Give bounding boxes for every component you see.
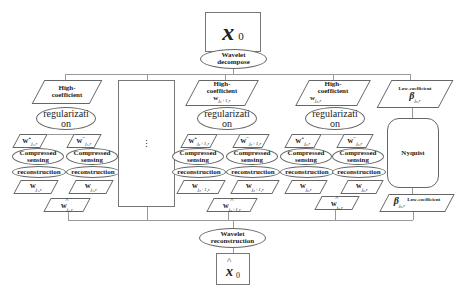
connector — [412, 108, 413, 118]
w-rec-left-3: wj₀,r — [288, 180, 324, 194]
beta-sub: j₀,r — [399, 203, 405, 208]
w-sub: j₁,r — [67, 206, 73, 211]
w-sub: j₀,r — [362, 186, 368, 191]
regularization-node-2: regularization — [197, 107, 257, 130]
recon-label: reconstruction — [17, 169, 60, 176]
regularization-node-3: regularization — [305, 107, 365, 130]
w-rec-right-3: wj₀,r — [344, 180, 380, 194]
connector — [147, 207, 148, 220]
nyquist-node: Nyquist — [387, 118, 439, 188]
output-subscript: 0 — [236, 271, 240, 280]
high-coefficient-input-2: High-coefficientwj₀+1,r — [192, 80, 252, 106]
w-rec-right-2: wj₀+1,r — [234, 180, 276, 194]
input-signal-box: x 0 — [205, 12, 261, 52]
low-coefficient-input: Low-coefficientβj₀,r — [384, 80, 446, 108]
regularization-node-1: regularization — [36, 107, 96, 130]
w-sub: j₀+1,r — [229, 206, 241, 211]
recon-label: reconstruction — [231, 169, 274, 176]
low-coefficient-output: βj₀,r Low-coefficient — [384, 194, 450, 212]
w-plus-sub: j₁,r — [31, 142, 37, 147]
w-final-2: ^wj₀+1,r — [210, 198, 254, 212]
ellipsis-symbol: ⋮ — [142, 139, 151, 149]
cs-label: Compressed sensing — [173, 150, 223, 164]
w-final-3: ^wj₀,r — [318, 196, 356, 210]
w-sub: j₁,r — [36, 186, 42, 191]
compressed-sensing-node: Compressed sensing — [332, 148, 384, 165]
recon-label: reconstruction — [285, 169, 328, 176]
connector — [228, 212, 229, 220]
cs-label: Compressed sensing — [227, 150, 277, 164]
recon-label: reconstruction — [71, 169, 114, 176]
flowchart: x 0 Wavelet decompose High-coefficient r… — [0, 0, 469, 294]
w-minus-sub: j₀,r — [356, 142, 362, 147]
compressed-sensing-node: Compressed sensing — [12, 148, 64, 165]
input-subscript: 0 — [238, 30, 244, 42]
reconstruction-node: reconstruction — [172, 166, 226, 178]
coeff-sub: j₀+1,r — [218, 99, 230, 104]
decompose-label: Wavelet decompose — [214, 52, 254, 66]
w-plus-3: w+j₀,r — [288, 134, 318, 148]
w-rec-left-1: wj₁,r — [17, 180, 55, 194]
w-minus-sub: j₀+1,r — [249, 142, 261, 147]
top-bus — [65, 74, 410, 75]
reconstruction-node: reconstruction — [280, 166, 334, 178]
w-sub: j₁,r — [91, 186, 97, 191]
w-plus-1: w+j₁,r — [16, 134, 44, 148]
low-label: Low-coefficient — [407, 196, 440, 203]
coeff-sub: j₀,r — [315, 99, 321, 104]
connector — [335, 210, 336, 220]
output-signal-box: ^ x 0 — [216, 253, 250, 285]
w-minus-sub: j₁,r — [85, 142, 91, 147]
w-rec-right-1: wj₁,r — [72, 180, 110, 194]
wavelet-decompose-node: Wavelet decompose — [200, 49, 267, 69]
recon-label: reconstruction — [177, 169, 220, 176]
high-coefficient-input-1: High-coefficient — [38, 80, 96, 104]
compressed-sensing-node: Compressed sensing — [172, 148, 224, 165]
coeff-label: High-coefficient — [314, 81, 352, 95]
w-minus-3: w−j₀,r — [340, 134, 370, 148]
recon-label: reconstruction — [337, 169, 380, 176]
w-plus-sub: j₀+1,r — [197, 142, 209, 147]
reconstruction-node: reconstruction — [226, 166, 280, 178]
w-plus-2: w+j₀+1,r — [184, 134, 214, 148]
w-minus-2: w−j₀+1,r — [236, 134, 266, 148]
reconstruction-node: reconstruction — [66, 166, 120, 178]
beta-sub: j₀,r — [414, 98, 420, 103]
cs-label: Compressed sensing — [13, 150, 63, 164]
coeff-label: High-coefficient — [203, 81, 241, 95]
compressed-sensing-node: Compressed sensing — [280, 148, 332, 165]
low-label: Low-coefficient — [398, 85, 431, 92]
regularization-label: regularization — [42, 109, 90, 129]
connector — [233, 220, 234, 228]
regularization-label: regularization — [203, 109, 251, 129]
w-sub: j₀,r — [337, 204, 343, 209]
coeff-label: High-coefficient — [50, 85, 84, 99]
cs-label: Compressed sensing — [333, 150, 383, 164]
ellipsis-box: ⋮ — [118, 80, 175, 207]
output-symbol: x — [226, 264, 233, 280]
reconstruction-node: reconstruction — [332, 166, 386, 178]
wavelet-reconstruction-node: Wavelet reconstruction — [199, 228, 266, 248]
cs-label: Compressed sensing — [281, 150, 331, 164]
w-final-1: ^wj₁,r — [47, 198, 87, 212]
regularization-label: regularization — [311, 109, 359, 129]
w-plus-sub: j₀,r — [304, 142, 310, 147]
compressed-sensing-node: Compressed sensing — [226, 148, 278, 165]
w-sub: j₀,r — [306, 186, 312, 191]
reconstruction-node: reconstruction — [12, 166, 66, 178]
nyquist-label: Nyquist — [401, 149, 424, 157]
reconstruct-label: Wavelet reconstruction — [207, 231, 259, 245]
cs-label: Compressed sensing — [67, 150, 117, 164]
w-minus-1: w−j₁,r — [70, 134, 98, 148]
w-sub: j₀+1,r — [198, 186, 210, 191]
bottom-bus — [68, 220, 413, 221]
w-sub: j₀+1,r — [252, 186, 264, 191]
compressed-sensing-node: Compressed sensing — [66, 148, 118, 165]
w-rec-left-2: wj₀+1,r — [180, 180, 222, 194]
input-symbol: x — [222, 19, 234, 46]
high-coefficient-input-3: High-coefficientwj₀,r — [302, 80, 364, 106]
